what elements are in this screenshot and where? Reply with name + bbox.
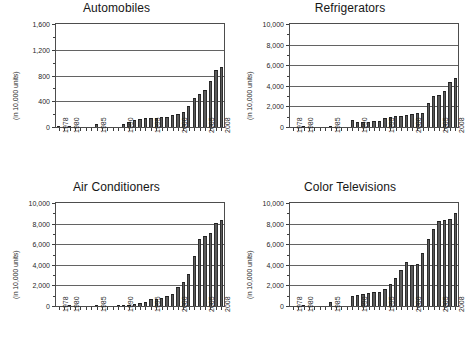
bar xyxy=(176,114,179,127)
bar xyxy=(454,78,457,127)
x-axis-tick-label: 2000 xyxy=(181,296,188,312)
x-axis-tick-label: 1978 xyxy=(296,117,303,133)
bar xyxy=(329,302,332,306)
bar xyxy=(165,117,168,127)
chart-title: Refrigerators xyxy=(233,1,467,16)
x-axis-tick xyxy=(455,307,456,310)
x-axis-tick xyxy=(390,307,391,310)
y-axis-label: (in 10,000 units) xyxy=(12,251,19,300)
x-axis-tick-label: 2005 xyxy=(208,296,215,312)
bar xyxy=(95,124,98,127)
y-axis-tick-label: 4,000 xyxy=(32,261,50,268)
x-axis-tick-label: 1990 xyxy=(127,296,134,312)
x-axis-tick xyxy=(331,128,332,131)
x-axis-tick xyxy=(298,307,299,310)
x-axis-tick-label: 1978 xyxy=(62,296,69,312)
y-axis-minor-tick xyxy=(53,63,55,64)
bar xyxy=(214,223,217,306)
y-axis-minor-tick xyxy=(287,296,289,297)
bar xyxy=(448,219,451,306)
x-axis-tick xyxy=(341,307,342,310)
y-axis-label: (in 10,000 units) xyxy=(246,72,253,121)
bar xyxy=(372,121,375,127)
x-axis-tick-label: 1985 xyxy=(100,117,107,133)
x-axis-tick-label: 2008 xyxy=(224,296,231,312)
y-axis-tick-label: 6,000 xyxy=(266,62,284,69)
plot-area-wrapper xyxy=(55,23,225,128)
x-axis-tick xyxy=(75,128,76,131)
y-axis-tick xyxy=(286,265,289,266)
x-axis-tick xyxy=(59,128,60,131)
x-axis-tick xyxy=(336,128,337,131)
y-axis-tick xyxy=(286,86,289,87)
x-axis-tick xyxy=(75,307,76,310)
x-axis-tick xyxy=(205,128,206,131)
y-axis-tick-label: 8,000 xyxy=(266,41,284,48)
x-axis-tick xyxy=(325,128,326,131)
bar xyxy=(427,103,430,127)
x-axis-tick xyxy=(450,307,451,310)
x-axis-tick xyxy=(70,128,71,131)
y-axis-minor-tick xyxy=(287,234,289,235)
bar xyxy=(378,292,381,306)
y-axis-tick-label: 0 xyxy=(280,124,284,131)
panel-air-conditioners: Air Conditioners (in 10,000 units) 02,00… xyxy=(0,179,233,358)
y-axis-tick-label: 2,000 xyxy=(32,282,50,289)
y-axis-tick xyxy=(52,285,55,286)
y-axis-tick-label: 800 xyxy=(38,72,50,79)
y-axis-tick xyxy=(286,244,289,245)
y-axis-tick-label: 8,000 xyxy=(266,220,284,227)
x-axis-tick-label: 2005 xyxy=(208,117,215,133)
x-axis-tick-label: 1990 xyxy=(361,117,368,133)
x-axis-tick xyxy=(385,128,386,131)
x-axis-tick-label: 1985 xyxy=(100,296,107,312)
bar xyxy=(176,287,179,306)
x-axis-tick xyxy=(374,307,375,310)
x-axis-tick-label: 1995 xyxy=(388,117,395,133)
x-axis-tick xyxy=(205,307,206,310)
x-axis-tick xyxy=(363,128,364,131)
bar xyxy=(356,122,359,127)
x-axis-tick xyxy=(221,128,222,131)
bar xyxy=(171,294,174,306)
x-axis-tick xyxy=(183,307,184,310)
bar xyxy=(209,233,212,306)
x-axis-tick xyxy=(352,307,353,310)
x-axis-tick-label: 2005 xyxy=(442,117,449,133)
bar xyxy=(171,115,174,127)
x-axis-tick-label: 1980 xyxy=(73,117,80,133)
x-axis-tick xyxy=(385,307,386,310)
x-axis-tick xyxy=(86,128,87,131)
x-axis-tick xyxy=(80,307,81,310)
y-axis-tick-label: 0 xyxy=(46,124,50,131)
bar xyxy=(193,256,196,306)
bar xyxy=(427,239,430,306)
x-axis-tick xyxy=(417,128,418,131)
bar xyxy=(165,296,168,306)
x-axis-tick xyxy=(304,128,305,131)
x-axis-tick xyxy=(369,307,370,310)
y-axis-tick xyxy=(52,127,55,128)
bar xyxy=(220,67,223,127)
bar xyxy=(454,213,457,306)
x-axis-tick xyxy=(80,128,81,131)
x-axis-tick xyxy=(200,307,201,310)
x-axis-tick xyxy=(455,128,456,131)
y-axis-tick xyxy=(286,127,289,128)
x-axis-tick xyxy=(320,128,321,131)
x-axis-tick-label: 1978 xyxy=(62,117,69,133)
y-axis-tick-label: 6,000 xyxy=(266,241,284,248)
y-axis-minor-tick xyxy=(287,255,289,256)
bar xyxy=(437,95,440,127)
y-axis-tick xyxy=(52,50,55,51)
x-axis-tick xyxy=(118,128,119,131)
x-axis-tick xyxy=(358,128,359,131)
y-axis-minor-tick xyxy=(287,275,289,276)
panel-color-televisions: Color Televisions (in 10,000 units) 02,0… xyxy=(233,179,467,358)
panel-refrigerators: Refrigerators (in 10,000 units) 02,0004,… xyxy=(233,0,467,179)
plot-area xyxy=(289,23,459,128)
bar xyxy=(144,118,147,127)
x-axis-tick xyxy=(216,307,217,310)
figure-grid: Automobiles (in 10,000 units) 04008001,2… xyxy=(0,0,467,358)
x-axis-tick xyxy=(183,128,184,131)
